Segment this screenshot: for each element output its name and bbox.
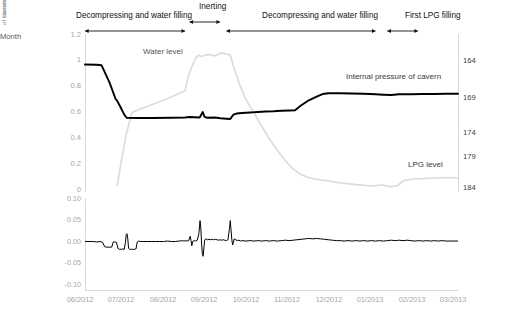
pressure-variation-line bbox=[85, 221, 458, 257]
plot-lines-layer bbox=[0, 0, 525, 331]
water-level-line bbox=[117, 53, 397, 187]
phase-arrow-group bbox=[85, 20, 418, 33]
internal-pressure-line bbox=[85, 65, 458, 119]
lpg-level-line bbox=[397, 178, 458, 186]
figure-canvas: Internal pressure of cavern (MPa) Water … bbox=[0, 0, 525, 331]
